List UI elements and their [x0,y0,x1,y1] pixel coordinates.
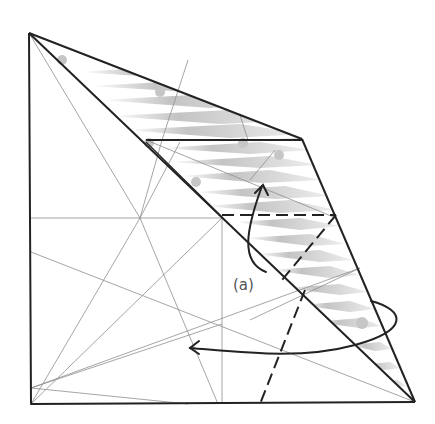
shaded-folded-flap [80,66,406,388]
origami-diagram: (a) [0,0,435,424]
double-edge [146,142,222,217]
step-label-a: (a) [233,276,254,294]
